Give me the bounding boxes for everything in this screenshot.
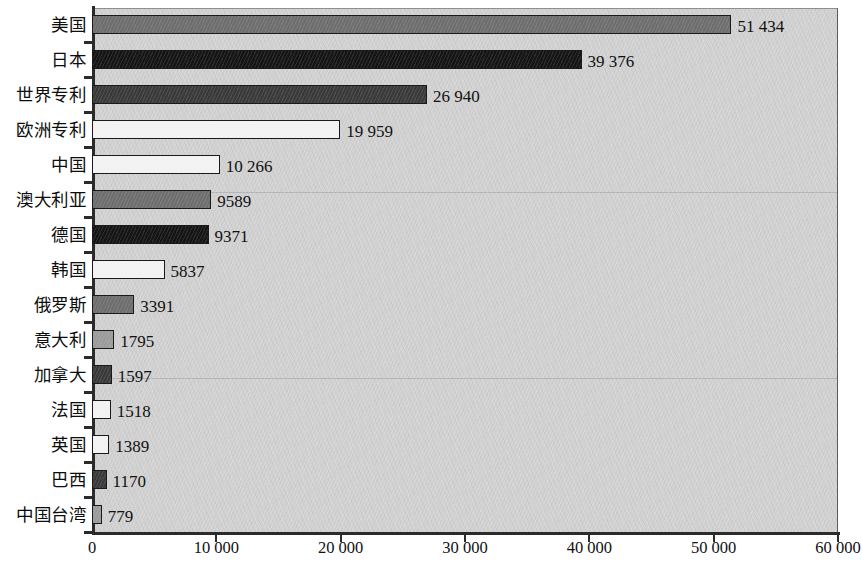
bar-texture bbox=[93, 16, 730, 33]
category-label: 德国 bbox=[0, 227, 86, 245]
category-label: 加拿大 bbox=[0, 367, 86, 385]
category-label: 俄罗斯 bbox=[0, 297, 86, 315]
bar bbox=[92, 365, 112, 384]
bar bbox=[92, 50, 582, 69]
category-label: 法国 bbox=[0, 402, 86, 420]
y-axis-tick bbox=[84, 496, 92, 499]
bar-value-label: 1170 bbox=[113, 473, 146, 490]
y-axis-tick bbox=[84, 41, 92, 44]
bar-value-label: 9371 bbox=[215, 228, 249, 245]
x-tick-label: 10 000 bbox=[194, 540, 239, 557]
bar-value-label: 9589 bbox=[217, 193, 251, 210]
bar-value-label: 19 959 bbox=[346, 123, 393, 140]
category-label: 中国 bbox=[0, 157, 86, 175]
category-label: 澳大利亚 bbox=[0, 192, 86, 210]
bar-texture bbox=[93, 121, 339, 138]
bar-value-label: 1389 bbox=[115, 438, 149, 455]
bar bbox=[92, 15, 731, 34]
bar-texture bbox=[93, 51, 581, 68]
category-label: 美国 bbox=[0, 17, 86, 35]
bar-value-label: 51 434 bbox=[737, 18, 784, 35]
bar bbox=[92, 260, 165, 279]
bar-texture bbox=[93, 331, 113, 348]
bar bbox=[92, 120, 340, 139]
x-tick-label: 0 bbox=[88, 540, 96, 557]
chart-root: 美国日本世界专利欧洲专利中国澳大利亚德国韩国俄罗斯意大利加拿大法国英国巴西中国台… bbox=[0, 0, 862, 564]
y-axis-tick bbox=[84, 181, 92, 184]
bar-value-label: 26 940 bbox=[433, 88, 480, 105]
bar-texture bbox=[93, 296, 133, 313]
category-label: 巴西 bbox=[0, 472, 86, 490]
bar bbox=[92, 470, 107, 489]
y-axis-tick bbox=[84, 286, 92, 289]
y-axis-tick bbox=[84, 321, 92, 324]
bar-value-label: 779 bbox=[108, 508, 134, 525]
category-label: 日本 bbox=[0, 52, 86, 70]
x-tick-label: 60 000 bbox=[815, 540, 860, 557]
bar bbox=[92, 155, 220, 174]
bar-texture bbox=[93, 366, 111, 383]
bar bbox=[92, 225, 209, 244]
category-label: 韩国 bbox=[0, 262, 86, 280]
y-axis-tick bbox=[84, 251, 92, 254]
y-axis-tick bbox=[84, 216, 92, 219]
bar-value-label: 10 266 bbox=[226, 158, 273, 175]
y-axis-tick bbox=[84, 391, 92, 394]
bar-texture bbox=[93, 191, 210, 208]
x-tick-label: 20 000 bbox=[318, 540, 363, 557]
category-label: 意大利 bbox=[0, 332, 86, 350]
y-axis-tick bbox=[84, 461, 92, 464]
y-axis-tick bbox=[84, 356, 92, 359]
bar-texture bbox=[93, 261, 164, 278]
bar-texture bbox=[93, 86, 426, 103]
y-axis-tick bbox=[84, 531, 92, 534]
x-tick-label: 50 000 bbox=[691, 540, 736, 557]
scan-band bbox=[92, 378, 837, 379]
y-axis-tick bbox=[84, 426, 92, 429]
bar bbox=[92, 295, 134, 314]
bar-value-label: 39 376 bbox=[588, 53, 635, 70]
x-tick-label: 30 000 bbox=[442, 540, 487, 557]
bar-texture bbox=[93, 156, 219, 173]
bar bbox=[92, 190, 211, 209]
bar-value-label: 1795 bbox=[120, 333, 154, 350]
category-label: 中国台湾 bbox=[0, 507, 86, 525]
bar bbox=[92, 435, 109, 454]
bar-value-label: 3391 bbox=[140, 298, 174, 315]
bar-value-label: 1518 bbox=[117, 403, 151, 420]
category-label: 世界专利 bbox=[0, 87, 86, 105]
bar-value-label: 5837 bbox=[171, 263, 205, 280]
x-tick-label: 40 000 bbox=[567, 540, 612, 557]
bar-value-label: 1597 bbox=[118, 368, 152, 385]
category-label: 英国 bbox=[0, 437, 86, 455]
bar-texture bbox=[93, 436, 108, 453]
bar bbox=[92, 400, 111, 419]
y-axis-tick bbox=[84, 76, 92, 79]
category-label: 欧洲专利 bbox=[0, 122, 86, 140]
bar-texture bbox=[93, 506, 101, 523]
bar-texture bbox=[93, 471, 106, 488]
x-axis-line bbox=[92, 532, 840, 535]
y-axis-tick bbox=[84, 111, 92, 114]
bar-texture bbox=[93, 226, 208, 243]
bar bbox=[92, 330, 114, 349]
bar-texture bbox=[93, 401, 110, 418]
bar bbox=[92, 505, 102, 524]
bar bbox=[92, 85, 427, 104]
y-axis-tick bbox=[84, 146, 92, 149]
